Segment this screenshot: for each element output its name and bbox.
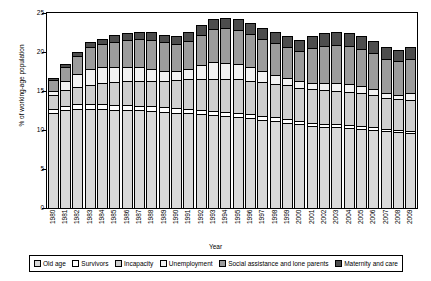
bar-segment: [246, 119, 255, 208]
bar-column: [86, 43, 95, 208]
x-axis-title: Year: [0, 243, 431, 250]
x-axis-tick-label: 1994: [221, 210, 230, 244]
bar-column: [283, 37, 292, 208]
bar-segment: [123, 111, 132, 209]
legend-label: Unemployment: [169, 260, 213, 268]
bar-segment: [197, 26, 206, 35]
bar-segment: [49, 81, 58, 92]
x-axis-tick-label: 1985: [110, 210, 119, 244]
x-axis-tick-label: 2003: [332, 210, 341, 244]
x-axis-tick-label: 1997: [258, 210, 267, 244]
bar-segment: [258, 72, 267, 83]
bar-segment: [221, 64, 230, 80]
x-axis-tick-label: 2002: [320, 210, 329, 244]
bar-segment: [295, 125, 304, 208]
legend-swatch: [34, 260, 41, 267]
bar-segment: [184, 42, 193, 70]
bar-segment: [110, 68, 119, 84]
bar-segment: [209, 116, 218, 208]
bar-segment: [406, 101, 415, 131]
bar-segment: [147, 33, 156, 41]
x-axis-tick-label: 2000: [295, 210, 304, 244]
bar-column: [332, 33, 341, 208]
bar-segment: [258, 29, 267, 40]
y-axis-tick-label: 0: [20, 204, 44, 211]
bar-segment: [308, 49, 317, 84]
bar-column: [98, 40, 107, 208]
bar-column: [382, 48, 391, 208]
bar-segment: [221, 80, 230, 113]
bar-segment: [295, 89, 304, 123]
x-axis-tick-label: 1981: [61, 210, 70, 244]
bar-segment: [234, 65, 243, 80]
bar-segment: [184, 33, 193, 42]
bar-segment: [357, 130, 366, 208]
bar-segment: [345, 34, 354, 46]
bar-segment: [246, 82, 255, 116]
x-axis-tick-label: 2008: [394, 210, 403, 244]
bar-segment: [369, 131, 378, 208]
bar-column: [61, 65, 70, 208]
bar-segment: [160, 43, 169, 71]
bar-segment: [73, 75, 82, 88]
bar-segment: [283, 79, 292, 86]
bar-segment: [147, 82, 156, 107]
legend-swatch: [160, 260, 167, 267]
bar-segment: [209, 30, 218, 63]
bar-segment: [197, 80, 206, 111]
legend-label: Survivors: [81, 260, 108, 268]
bar-segment: [61, 82, 70, 91]
bar-segment: [271, 122, 280, 208]
bar-segment: [123, 82, 132, 105]
bar-segment: [357, 37, 366, 49]
bar-segment: [234, 80, 243, 114]
bar-column: [197, 26, 206, 208]
bar-segment: [283, 37, 292, 48]
bar-segment: [271, 76, 280, 85]
legend-label: Social assistance and lone parents: [228, 260, 328, 268]
bar-segment: [345, 47, 354, 85]
x-axis-tick-label: 1993: [209, 210, 218, 244]
bar-segment: [394, 100, 403, 130]
bar-segment: [221, 19, 230, 30]
bar-column: [221, 19, 230, 208]
bar-column: [209, 20, 218, 208]
bar-segment: [86, 48, 95, 70]
bar-segment: [258, 121, 267, 208]
bar-segment: [123, 34, 132, 41]
bar-segment: [160, 72, 169, 82]
bar-segment: [147, 41, 156, 70]
bar-segment: [221, 117, 230, 208]
bar-column: [184, 33, 193, 208]
bar-segment: [406, 94, 415, 101]
bar-segment: [110, 83, 119, 106]
bar-segment: [320, 84, 329, 91]
bar-segment: [172, 72, 181, 81]
bar-segment: [172, 114, 181, 208]
x-axis-tick-label: 1984: [98, 210, 107, 244]
y-axis-tick-label: 25: [20, 9, 44, 16]
legend-swatch: [335, 260, 342, 267]
x-axis-tick-label: 1986: [123, 210, 132, 244]
bar-segment: [49, 114, 58, 208]
x-axis-tick-label: 1983: [86, 210, 95, 244]
bar-segment: [135, 40, 144, 68]
legend-label: Incapacity: [124, 260, 153, 268]
bar-segment: [271, 85, 280, 119]
bar-segment: [357, 50, 366, 87]
bar-segment: [73, 110, 82, 208]
x-axis-tick-label: 1987: [135, 210, 144, 244]
bar-segment: [86, 70, 95, 86]
bar-segment: [320, 91, 329, 125]
bar-segment: [357, 87, 366, 94]
bar-column: [308, 37, 317, 208]
bar-segment: [135, 111, 144, 208]
bar-segment: [246, 68, 255, 81]
bar-segment: [332, 84, 341, 92]
x-axis-tick-label: 1992: [197, 210, 206, 244]
legend-label: Old age: [43, 260, 66, 268]
bar-segment: [394, 133, 403, 208]
bar-segment: [394, 51, 403, 63]
bar-segment: [246, 35, 255, 69]
bar-segment: [345, 93, 354, 127]
